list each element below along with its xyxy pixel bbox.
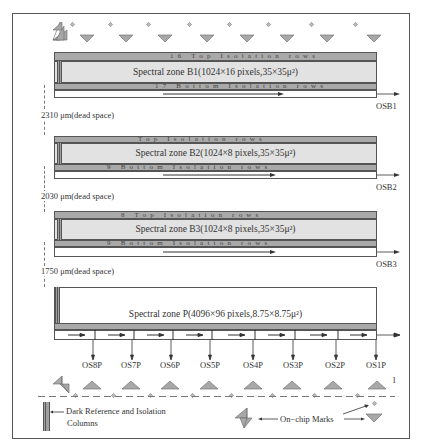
top-marks xyxy=(0,0,422,40)
p-spectral-zone: Spectral zone P(4096×96 pixels,8.75×8.75… xyxy=(54,287,377,324)
legend-dark-ref-label: Dark Reference and Isolation xyxy=(66,406,166,416)
dead-space-1-label: 2310 μm(dead space) xyxy=(40,110,115,120)
output-os5p: OS5P xyxy=(195,360,225,370)
p-readout-register xyxy=(54,330,377,340)
b2-readout-register xyxy=(54,171,377,179)
p-dark-ref-column xyxy=(55,287,60,324)
output-osb2: OSB2 xyxy=(376,182,397,192)
b2-spectral-zone: Spectral zone B2(1024×8 pixels,35×35μ²) xyxy=(54,143,377,164)
b1-dark-ref-column xyxy=(57,61,62,83)
b2-dark-ref-column xyxy=(57,143,62,164)
b2-top-isolation: Top Isolation rows xyxy=(54,136,377,143)
pin-one-label: 1 xyxy=(392,375,396,385)
b1-readout-register xyxy=(54,90,377,98)
b2-bottom-isolation: 9 Bottom Isolation rows xyxy=(54,164,377,171)
dead-space-3-dimension xyxy=(44,242,45,287)
diamond-marks xyxy=(70,22,357,26)
output-os4p: OS4P xyxy=(238,360,268,370)
legend-dark-ref-label-line2: Columns xyxy=(67,418,98,428)
legend-marks-label: On−chip Marks xyxy=(280,414,334,424)
output-os6p: OS6P xyxy=(155,360,185,370)
output-os2p: OS2P xyxy=(320,360,350,370)
output-osb3: OSB3 xyxy=(376,259,397,269)
b3-bottom-isolation: 9 Bottom Isolation rows xyxy=(54,240,377,247)
on-chip-mark-z-icon xyxy=(53,22,67,40)
dead-space-2-dimension xyxy=(44,166,45,212)
output-os8p: OS8P xyxy=(77,360,107,370)
legend-dark-ref-column-icon xyxy=(43,402,50,431)
b3-top-isolation: 8 Top Isolation rows xyxy=(54,211,377,219)
output-os3p: OS3P xyxy=(278,360,308,370)
output-os7p: OS7P xyxy=(116,360,146,370)
b1-top-isolation: 16 Top Isolation rows xyxy=(54,52,377,61)
dead-space-3-label: 1750 μm(dead space) xyxy=(40,266,115,276)
b3-dark-ref-column xyxy=(57,219,62,240)
dead-space-2-label: 2030 μm(dead space) xyxy=(40,191,115,201)
p-isolation-band xyxy=(54,323,377,330)
output-osb1: OSB1 xyxy=(376,101,397,111)
b1-bottom-isolation: 17 Bottom Isolation rows xyxy=(54,83,377,90)
b3-spectral-zone: Spectral zone B3(1024×8 pixels,35×35μ²) xyxy=(54,219,377,240)
b3-readout-register xyxy=(54,247,377,257)
b1-spectral-zone: Spectral zone B1(1024×16 pixels,35×35μ²) xyxy=(54,61,377,83)
output-os1p: OS1P xyxy=(361,360,391,370)
